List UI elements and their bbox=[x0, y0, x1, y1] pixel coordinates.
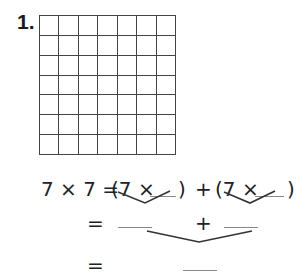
grouping-brackets bbox=[0, 0, 308, 279]
bracket-term1 bbox=[118, 191, 170, 203]
bracket-term2 bbox=[224, 191, 275, 203]
bracket-sum bbox=[147, 231, 252, 242]
